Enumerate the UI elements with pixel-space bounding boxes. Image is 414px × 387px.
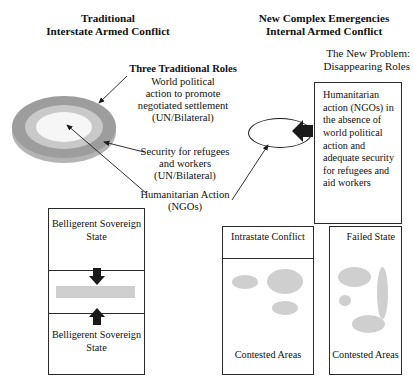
heading-traditional: Traditional Interstate Armed Conflict (18, 12, 198, 38)
box-new-problem-text: Humanitarian action (NGOs) in the absenc… (323, 89, 395, 190)
diagram-canvas: Traditional Interstate Armed Conflict Ne… (0, 0, 414, 387)
intrastate-caption: Contested Areas (223, 349, 313, 362)
failed-state-caption: Contested Areas (330, 349, 401, 362)
contested-area-blob (272, 301, 298, 315)
ellipse-disappearing-roles (248, 118, 312, 148)
contested-area-blob (267, 269, 303, 294)
front-line-bar (56, 286, 135, 298)
label-role-world-political-action: World political action to promote negoti… (118, 76, 248, 124)
contested-area-blob (339, 295, 351, 306)
box-belligerent-states: Belligerent Sovereign State Belligerent … (48, 208, 145, 375)
label-role-security-for-refugees: Security for refugees and workers (UN/Bi… (122, 146, 248, 182)
subheading-new-problem: The New Problem: Disappearing Roles (250, 47, 410, 72)
contested-area-blob (338, 267, 371, 287)
belligerent-state-bottom: Belligerent Sovereign State (49, 314, 144, 374)
label-three-traditional-roles: Three Traditional Roles (120, 63, 246, 75)
contested-area-blob (377, 267, 388, 319)
belligerent-state-top: Belligerent Sovereign State (49, 209, 144, 271)
failed-state-title: Failed State (347, 231, 395, 244)
contested-area-blob (232, 275, 258, 289)
contested-area-blob (352, 315, 385, 333)
ellipse-inner-humanitarian-action (36, 112, 92, 142)
heading-new-complex-emergencies: New Complex Emergencies Internal Armed C… (238, 12, 410, 38)
box-failed-state: Failed State Contested Areas (329, 226, 402, 375)
belligerent-front-line (49, 271, 144, 314)
box-new-problem: Humanitarian action (NGOs) in the absenc… (314, 82, 402, 224)
intrastate-title: Intrastate Conflict (223, 227, 313, 259)
intrastate-body: Contested Areas (223, 259, 313, 374)
box-intrastate-conflict: Intrastate Conflict Contested Areas (222, 226, 314, 375)
